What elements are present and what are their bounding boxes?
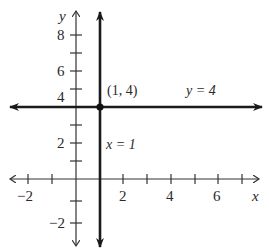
y-tick-6: 6 [57,63,65,79]
x-tick-neg2: −2 [17,188,33,204]
x-axis-label: x [251,188,259,204]
coordinate-plane: y x 8 6 4 2 −2 −2 2 4 6 (1, 4) y = 4 x =… [0,0,269,251]
y-tick-4: 4 [57,89,65,105]
y-axis [70,11,82,246]
y-tick-neg2: −2 [49,215,65,231]
y-tick-2: 2 [57,135,65,151]
intersection-point [96,103,103,110]
vline-label: x = 1 [105,137,136,152]
x-tick-4: 4 [166,188,174,204]
y-tick-8: 8 [57,27,65,43]
x-tick-2: 2 [119,188,127,204]
hline-label: y = 4 [184,83,216,98]
point-label: (1, 4) [107,83,138,99]
y-axis-label: y [57,8,66,24]
x-axis [10,174,259,184]
x-tick-6: 6 [213,188,221,204]
